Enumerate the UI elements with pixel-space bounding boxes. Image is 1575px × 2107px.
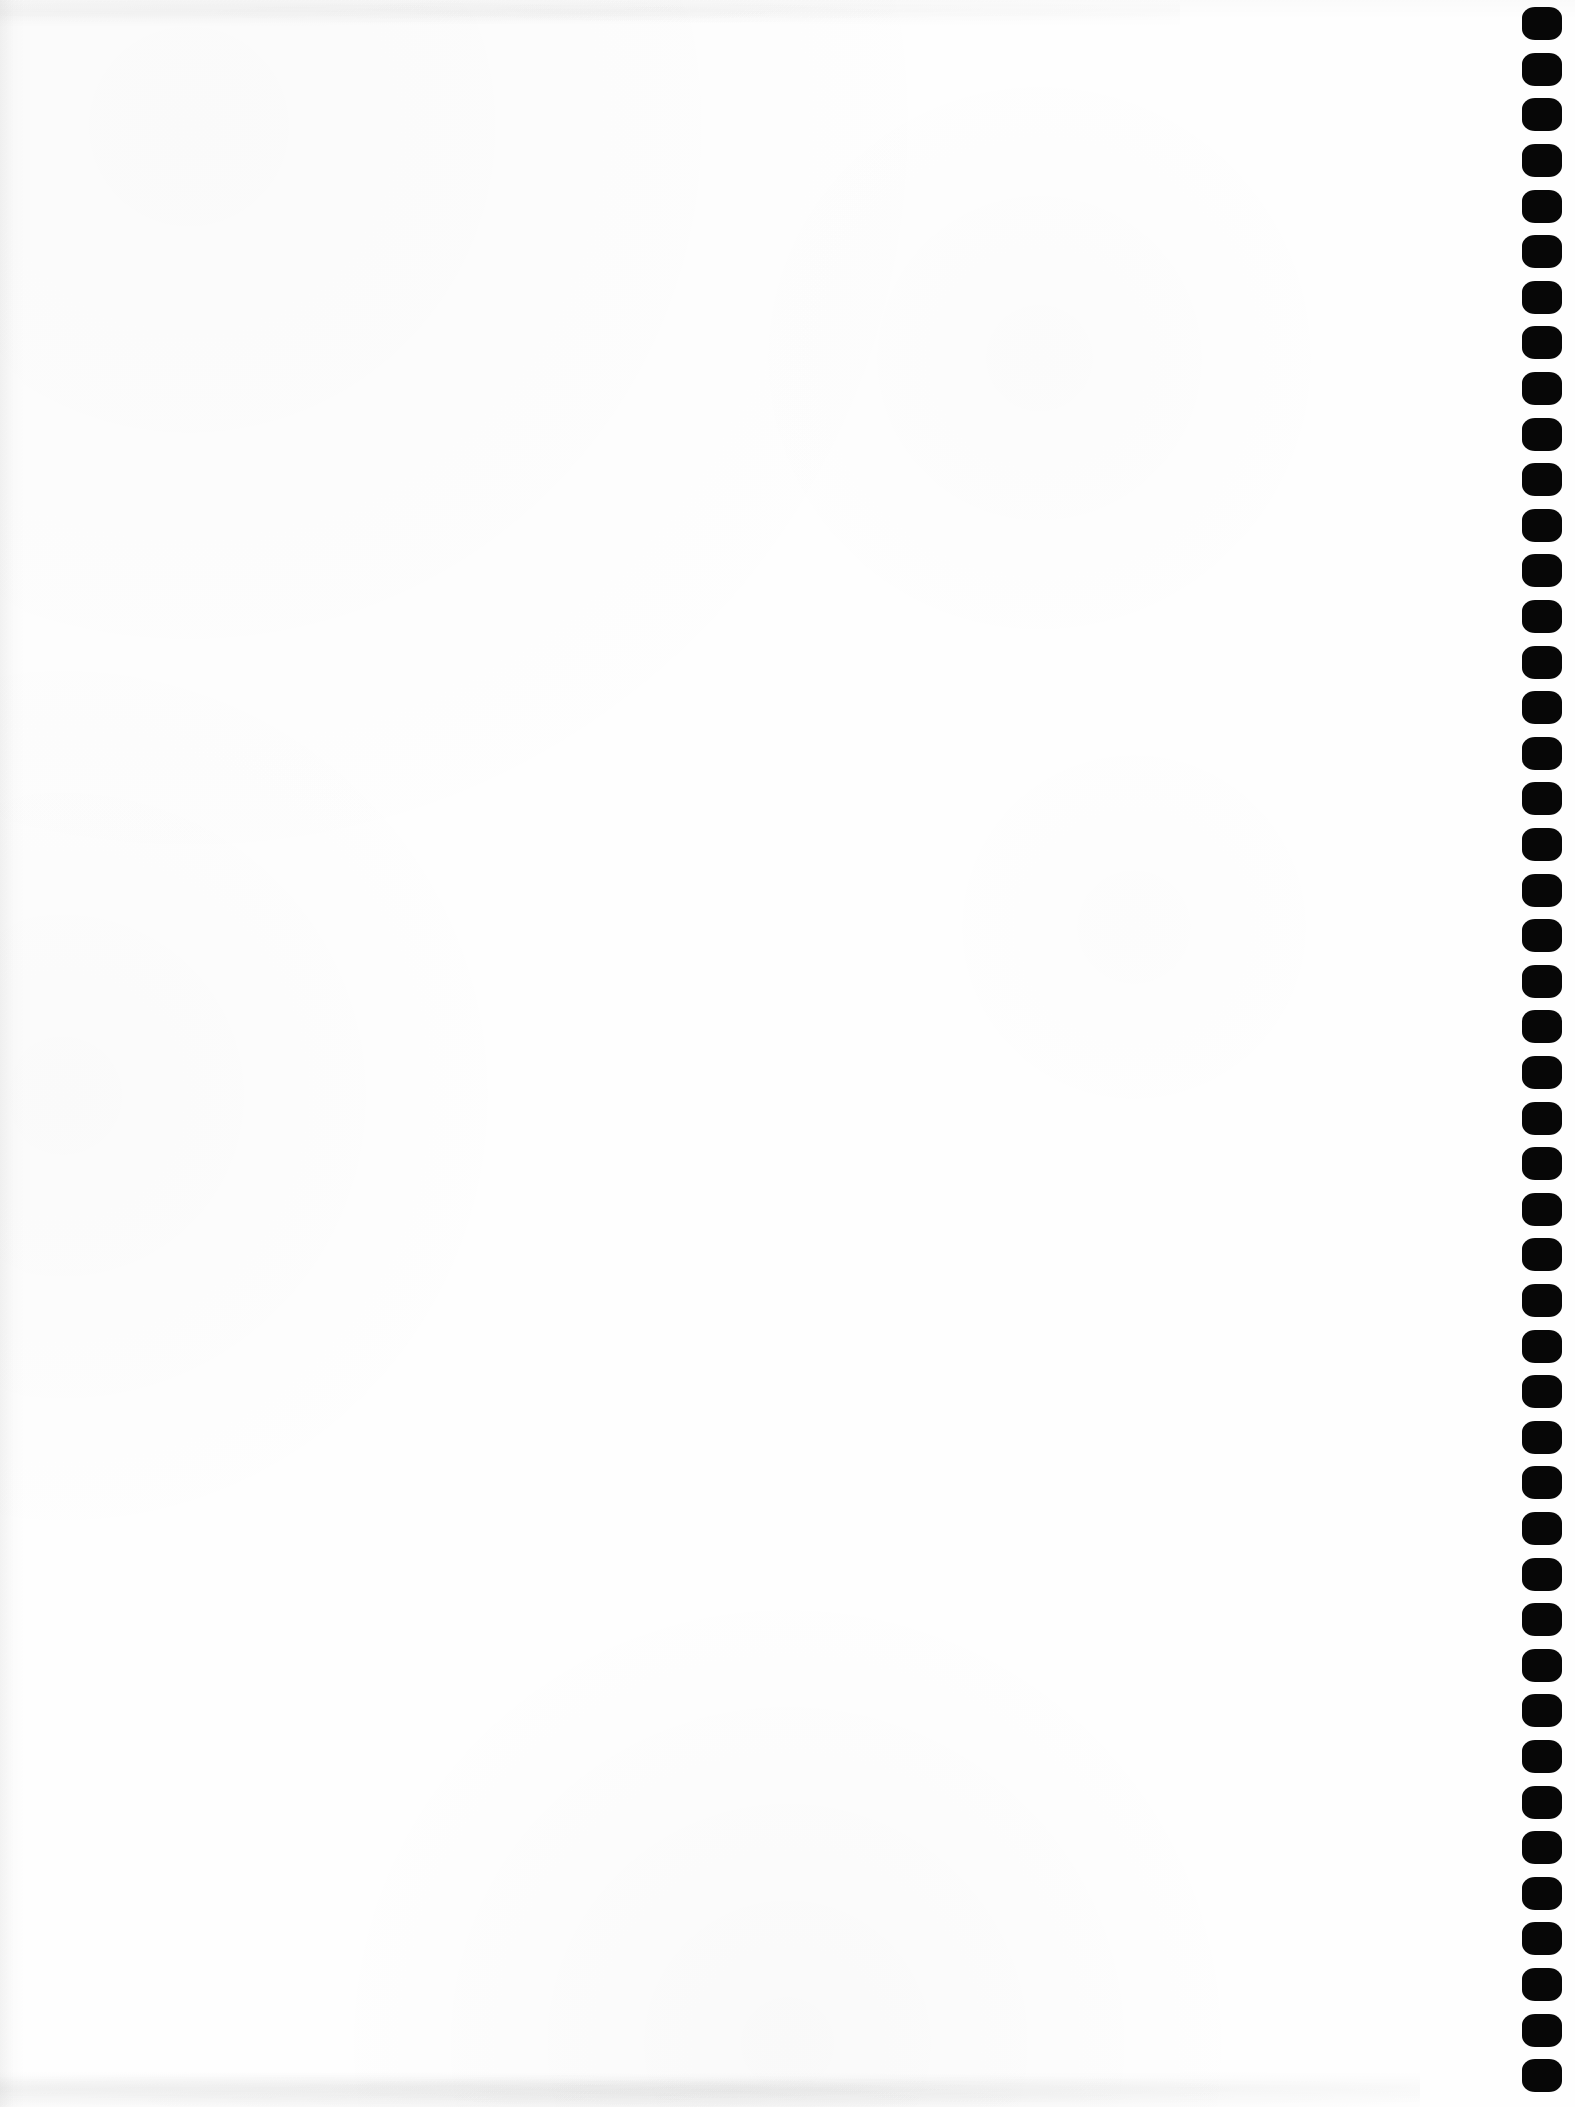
punch-hole-mark <box>1522 1786 1562 1819</box>
punch-hole-mark <box>1522 7 1562 40</box>
punch-hole-mark <box>1522 1558 1562 1591</box>
punch-hole-mark <box>1522 646 1562 679</box>
punch-hole-mark <box>1522 1512 1562 1545</box>
punch-hole-mark <box>1522 1968 1562 2001</box>
punch-hole-mark <box>1522 1010 1562 1043</box>
punch-hole-mark <box>1522 1330 1562 1363</box>
punch-hole-mark <box>1522 1056 1562 1089</box>
punch-hole-mark <box>1522 1102 1562 1135</box>
punch-hole-mark <box>1522 965 1562 998</box>
punch-hole-mark <box>1522 554 1562 587</box>
punch-hole-mark <box>1522 1877 1562 1910</box>
punch-hole-mark <box>1522 372 1562 405</box>
punch-hole-mark <box>1522 874 1562 907</box>
punch-hole-mark <box>1522 1922 1562 1955</box>
punch-hole-mark <box>1522 600 1562 633</box>
punch-hole-mark <box>1522 53 1562 86</box>
punch-hole-mark <box>1522 919 1562 952</box>
punch-hole-mark <box>1522 2059 1562 2092</box>
page-body-blank-area <box>0 0 1500 2107</box>
scanned-page <box>0 0 1575 2107</box>
punch-hole-mark <box>1522 737 1562 770</box>
punch-hole-mark-column <box>1522 0 1562 2107</box>
punch-hole-mark <box>1522 782 1562 815</box>
punch-hole-mark <box>1522 1193 1562 1226</box>
punch-hole-mark <box>1522 1375 1562 1408</box>
punch-hole-mark <box>1522 1147 1562 1180</box>
punch-hole-mark <box>1522 1421 1562 1454</box>
punch-hole-mark <box>1522 190 1562 223</box>
punch-hole-mark <box>1522 1238 1562 1271</box>
punch-hole-mark <box>1522 1466 1562 1499</box>
punch-hole-mark <box>1522 326 1562 359</box>
punch-hole-mark <box>1522 691 1562 724</box>
punch-hole-mark <box>1522 144 1562 177</box>
punch-hole-mark <box>1522 1284 1562 1317</box>
punch-hole-mark <box>1522 98 1562 131</box>
punch-hole-mark <box>1522 1740 1562 1773</box>
punch-hole-mark <box>1522 2014 1562 2047</box>
punch-hole-mark <box>1522 463 1562 496</box>
punch-hole-mark <box>1522 235 1562 268</box>
punch-hole-mark <box>1522 1603 1562 1636</box>
punch-hole-mark <box>1522 1649 1562 1682</box>
punch-hole-mark <box>1522 1831 1562 1864</box>
punch-hole-mark <box>1522 418 1562 451</box>
punch-hole-mark <box>1522 281 1562 314</box>
punch-hole-mark <box>1522 509 1562 542</box>
punch-hole-mark <box>1522 1694 1562 1727</box>
punch-hole-mark <box>1522 828 1562 861</box>
